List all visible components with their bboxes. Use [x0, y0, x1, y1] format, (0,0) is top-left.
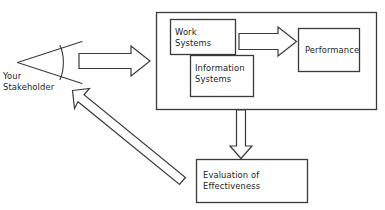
evaluation-box — [197, 160, 308, 203]
eye-viewpoint-icon — [18, 42, 83, 84]
diagram-vector-layer — [0, 0, 385, 210]
arrow-stakeholder-to-container — [79, 46, 150, 76]
information-systems-box — [191, 56, 254, 97]
diagram-canvas: Your Stakeholder Work Systems Informatio… — [0, 0, 385, 210]
performance-box — [299, 29, 360, 72]
work-systems-box — [171, 20, 236, 55]
arrow-container-to-evaluation — [230, 110, 252, 159]
